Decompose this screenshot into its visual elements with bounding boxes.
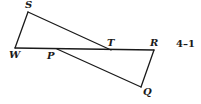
point-label-P: P — [46, 50, 55, 61]
point-label-W: W — [9, 49, 22, 60]
geometry-diagram: S W P T R Q 4–1 — [0, 0, 201, 104]
point-label-Q: Q — [143, 86, 152, 97]
point-label-R: R — [149, 37, 158, 48]
point-label-T: T — [107, 37, 116, 48]
segment-ST — [28, 12, 111, 50]
figure-number: 4–1 — [176, 38, 195, 49]
segment-SW — [15, 12, 28, 48]
point-label-S: S — [25, 0, 32, 10]
segment-QR — [141, 50, 154, 87]
segment-PQ — [57, 49, 141, 87]
segments — [15, 12, 154, 87]
segment-WR — [15, 48, 154, 50]
